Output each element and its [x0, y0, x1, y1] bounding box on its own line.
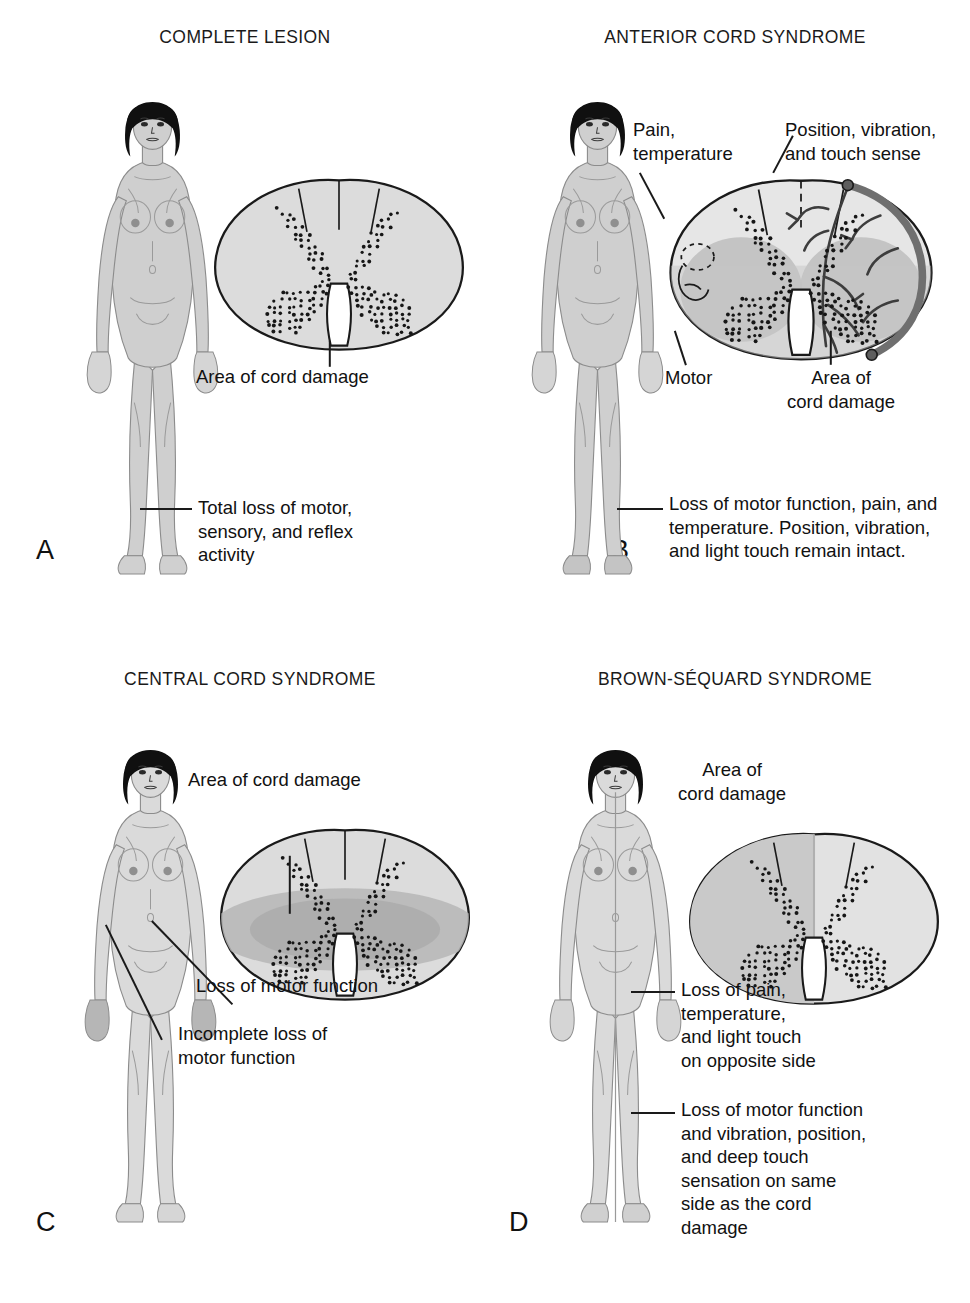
panel-c-leader-cord-damage: [289, 856, 291, 914]
panel-c-label-incomplete-loss: Incomplete loss of motor function: [178, 1022, 438, 1069]
panel-b-label-area-of-cord-damage: Area of cord damage: [761, 366, 921, 413]
panel-c-letter: C: [36, 1207, 56, 1238]
panel-c-label-loss-of-motor-function: Loss of motor function: [196, 974, 476, 998]
panel-brown-sequard-syndrome: BROWN-SÉQUARD SYNDROME D Area of cord da…: [485, 640, 970, 1303]
panel-a-title: COMPLETE LESION: [105, 26, 385, 49]
panel-d-label-ipsilateral-deficit: Loss of motor function and vibration, po…: [681, 1098, 941, 1239]
panel-b-label-position-vibration-touch: Position, vibration, and touch sense: [785, 118, 970, 165]
panel-central-cord-syndrome: CENTRAL CORD SYNDROME C: [0, 640, 485, 1303]
panel-d-leader-contralateral: [631, 991, 675, 993]
panel-d-label-area-of-cord-damage: Area of cord damage: [637, 758, 827, 805]
panel-a-label-area-of-cord-damage: Area of cord damage: [196, 365, 456, 389]
panel-c-label-area-of-cord-damage: Area of cord damage: [188, 768, 478, 792]
panel-b-label-pain-temperature: Pain, temperature: [633, 118, 783, 165]
panel-b-title: ANTERIOR CORD SYNDROME: [585, 26, 885, 49]
panel-complete-lesion: COMPLETE LESION A Area of cord damage To…: [0, 0, 485, 620]
panel-c-title: CENTRAL CORD SYNDROME: [110, 668, 390, 691]
panel-b-label-motor: Motor: [665, 366, 755, 390]
panel-a-cord-cross-section: [208, 172, 470, 358]
panel-anterior-cord-syndrome: ANTERIOR CORD SYNDROME B: [485, 0, 970, 620]
panel-d-title: BROWN-SÉQUARD SYNDROME: [585, 668, 885, 691]
panel-b-cord-cross-section: [665, 170, 937, 370]
panel-b-body-figure: [515, 100, 680, 578]
panel-a-letter: A: [36, 535, 54, 566]
panel-d-label-contralateral-deficit: Loss of pain, temperature, and light tou…: [681, 978, 931, 1072]
panel-b-label-deficit: Loss of motor function, pain, and temper…: [669, 492, 969, 563]
panel-a-leader-cord-damage: [329, 341, 331, 367]
panel-b-leader-deficit: [617, 508, 663, 510]
panel-d-letter: D: [509, 1207, 529, 1238]
panel-a-leader-deficit: [140, 508, 192, 510]
panel-b-leader-cord-damage: [830, 331, 832, 365]
panel-a-label-deficit: Total loss of motor, sensory, and reflex…: [198, 496, 448, 567]
panel-d-body-figure: [533, 748, 698, 1226]
panel-d-leader-ipsilateral: [631, 1112, 675, 1114]
